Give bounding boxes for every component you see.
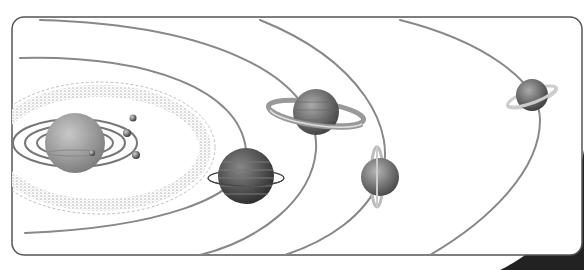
solar-system-diagram (0, 0, 584, 270)
sun-icon (45, 113, 105, 173)
mercury-icon (89, 150, 95, 156)
earth-icon (130, 115, 137, 122)
mars-icon (132, 151, 140, 159)
venus-icon (123, 129, 131, 137)
